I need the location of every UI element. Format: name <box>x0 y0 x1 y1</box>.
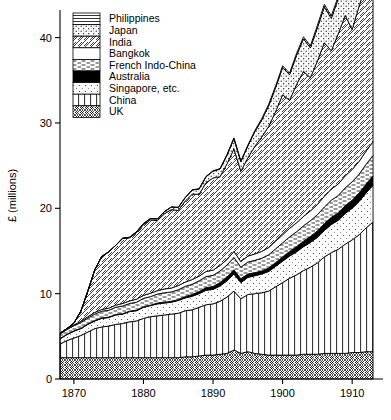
chart-root: 01020304018701880189019001910£ (millions… <box>0 0 391 420</box>
y-tick-label: 40 <box>40 32 52 44</box>
legend-swatch-australia <box>73 71 100 83</box>
stacked-area-chart: 01020304018701880189019001910£ (millions… <box>0 0 391 420</box>
legend-swatch-uk <box>73 106 100 118</box>
legend-swatch-singapore-etc <box>73 83 100 95</box>
legend-label-french-indo-china: French Indo-China <box>109 59 196 71</box>
legend-label-philippines: Philippines <box>109 12 160 24</box>
plot-series-group <box>60 0 373 379</box>
legend-swatch-philippines <box>73 13 100 25</box>
legend-label-singapore-etc: Singapore, etc. <box>109 82 180 94</box>
legend-label-japan: Japan <box>109 24 138 36</box>
y-axis-title: £ (millions) <box>6 169 18 222</box>
legend-swatch-french-indo-china <box>73 59 100 71</box>
legend-label-china: China <box>109 94 137 106</box>
legend-swatch-china <box>73 94 100 106</box>
x-tick-label: 1880 <box>131 387 155 399</box>
y-tick-label: 10 <box>40 288 52 300</box>
legend-label-australia: Australia <box>109 70 150 82</box>
legend: PhilippinesJapanIndiaBangkokFrench Indo-… <box>73 12 196 117</box>
x-tick-label: 1890 <box>201 387 225 399</box>
x-tick-label: 1870 <box>62 387 86 399</box>
y-tick-label: 20 <box>40 202 52 214</box>
y-tick-label: 30 <box>40 117 52 129</box>
x-tick-label: 1900 <box>270 387 294 399</box>
x-tick-label: 1910 <box>340 387 364 399</box>
legend-label-bangkok: Bangkok <box>109 47 151 59</box>
y-tick-label: 0 <box>46 373 52 385</box>
legend-swatch-japan <box>73 25 100 37</box>
legend-label-uk: UK <box>109 105 124 117</box>
legend-swatch-bangkok <box>73 48 100 60</box>
legend-label-india: India <box>109 36 132 48</box>
legend-swatch-india <box>73 36 100 48</box>
